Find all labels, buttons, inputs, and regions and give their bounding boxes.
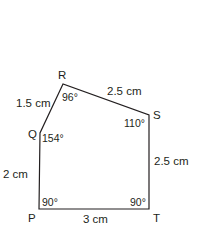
angle-label-t: 90° bbox=[130, 196, 146, 208]
vertex-label-q: Q bbox=[28, 128, 37, 140]
angle-label-s: 110° bbox=[124, 117, 145, 129]
vertex-label-p: P bbox=[28, 212, 36, 224]
angle-label-p: 90° bbox=[42, 196, 58, 208]
pentagon-outline bbox=[39, 84, 149, 209]
vertex-label-r: R bbox=[58, 69, 66, 81]
side-label-pq: 2 cm bbox=[3, 168, 28, 180]
angle-label-q: 154° bbox=[42, 132, 64, 144]
vertex-label-s: S bbox=[153, 109, 161, 121]
vertex-label-t: T bbox=[153, 212, 160, 224]
angle-label-r: 96° bbox=[62, 91, 78, 103]
side-label-tp: 3 cm bbox=[83, 213, 108, 225]
side-label-rs: 2.5 cm bbox=[107, 85, 142, 97]
side-label-qr: 1.5 cm bbox=[16, 97, 51, 109]
side-label-st: 2.5 cm bbox=[154, 155, 189, 167]
pentagon-diagram: P Q R S T 90° 154° 96° 110° 90° 2 cm 1.5… bbox=[0, 0, 202, 239]
